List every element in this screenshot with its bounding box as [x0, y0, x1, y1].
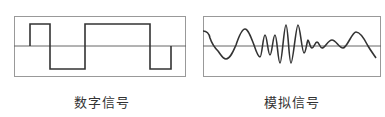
digital-signal-plot [0, 0, 192, 90]
analog-signal-caption: 模拟信号 [264, 92, 320, 111]
digital-signal-panel: 数字信号 [0, 0, 192, 117]
analog-waveform [203, 25, 376, 63]
analog-signal-plot [190, 0, 385, 90]
analog-signal-panel: 模拟信号 [190, 0, 385, 117]
digital-signal-caption: 数字信号 [74, 92, 130, 111]
